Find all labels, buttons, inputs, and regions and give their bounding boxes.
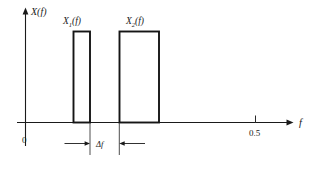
- signal-spectrum-figure: X(f) f X1(f) X2(f) 0 0.5: [0, 0, 317, 170]
- pulse-label-x1-tail: (f): [72, 16, 81, 27]
- x-axis-arrowhead: [287, 120, 294, 126]
- dim-arrow-right-head: [119, 141, 124, 145]
- x-tick-label-0point5-text: 0.5: [249, 128, 261, 138]
- axes-group: [17, 8, 294, 147]
- y-axis-arrowhead: [23, 8, 29, 15]
- origin-label-text: 0: [22, 135, 27, 145]
- x-axis-label-text: f: [299, 117, 304, 128]
- y-axis-label-text: X(f): [30, 6, 47, 18]
- pulse-group: [74, 32, 160, 123]
- origin-label: 0: [22, 135, 27, 145]
- figure-canvas: X(f) f X1(f) X2(f) 0 0.5: [0, 0, 317, 170]
- pulse-label-x2: X2(f): [125, 16, 144, 28]
- y-axis-label: X(f): [30, 6, 47, 18]
- delta-f-variable: f: [101, 139, 105, 149]
- pulse-label-x2-tail: (f): [135, 16, 144, 27]
- x-tick-label-0point5: 0.5: [249, 128, 261, 138]
- pulse-label-x1: X1(f): [62, 16, 81, 28]
- label-group: X(f) f X1(f) X2(f) 0 0.5: [22, 6, 304, 149]
- pulse-rect-x2: [120, 32, 160, 123]
- delta-f-label: Δf: [95, 139, 105, 149]
- dim-arrow-left-head: [85, 141, 90, 145]
- pulse-rect-x1: [74, 32, 91, 123]
- delta-f-annotation-group: [65, 123, 146, 155]
- x-axis-label: f: [299, 117, 304, 128]
